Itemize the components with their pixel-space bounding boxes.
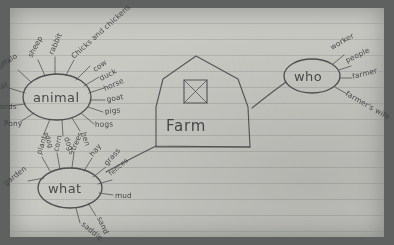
leaf-what-7: mud bbox=[115, 191, 132, 200]
leaf-what-2: corn bbox=[51, 134, 64, 152]
node-who: who worker people farmer farmer's wife bbox=[284, 31, 392, 122]
leaf-who-3: farmer's wife bbox=[344, 89, 392, 122]
leaf-animal-14: cat bbox=[0, 80, 9, 92]
leaf-animal-8: hogs bbox=[95, 119, 114, 129]
leaf-animal-7: pigs bbox=[104, 105, 121, 116]
mind-map-drawing: Farm animal bbox=[0, 0, 394, 245]
crossed-window-icon bbox=[184, 80, 207, 103]
node-animal: animal sheep r bbox=[0, 3, 132, 156]
node-animal-label: animal bbox=[33, 90, 79, 105]
leaf-animal-1: rabbit bbox=[47, 32, 64, 56]
leaf-animal-13: birds bbox=[0, 102, 17, 111]
leaf-what-0: garden bbox=[2, 164, 29, 188]
leaf-animal-6: goat bbox=[106, 92, 124, 104]
leaf-animal-2: Chicks and chickens bbox=[69, 3, 132, 61]
leaf-animal-0: sheep bbox=[26, 34, 45, 59]
connector-barn-to-who bbox=[252, 82, 286, 108]
node-what-label: what bbox=[48, 181, 82, 196]
node-who-label: who bbox=[294, 69, 322, 84]
mind-map-photo: Farm animal bbox=[0, 0, 394, 245]
leaf-who-2: farmer bbox=[351, 66, 379, 81]
leaf-who-1: people bbox=[344, 45, 371, 64]
leaf-animal-12: Pony bbox=[4, 119, 23, 128]
barn-label: Farm bbox=[166, 117, 206, 135]
leaf-who-0: worker bbox=[329, 31, 357, 52]
leaf-animal-15: buffalo bbox=[0, 51, 19, 73]
